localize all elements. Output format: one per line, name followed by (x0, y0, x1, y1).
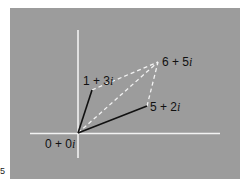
complex-plane-diagram (0, 0, 250, 186)
vector-origin-to-z2 (78, 106, 147, 133)
label-z1: 1 + 3i (83, 75, 113, 87)
label-origin: 0 + 0i (45, 138, 75, 150)
edge-mark: 5 (0, 166, 5, 176)
label-z2: 5 + 2i (150, 101, 180, 113)
label-sum: 6 + 5i (162, 56, 192, 68)
